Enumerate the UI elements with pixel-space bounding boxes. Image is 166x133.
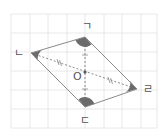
parallelogram-diagram: ㄱ ㄴ ㄷ ㄹ O [0,0,166,133]
vertex-label-digeut: ㄷ [80,114,90,127]
vertex-label-rieul: ㄹ [143,83,153,96]
center-point [83,70,86,73]
center-label: O [73,70,82,83]
angle-marker-giyeok [76,37,92,47]
vertex-label-nieun: ㄴ [14,47,24,60]
vertex-label-giyeok: ㄱ [82,20,92,33]
angle-marker-digeut [79,97,95,107]
